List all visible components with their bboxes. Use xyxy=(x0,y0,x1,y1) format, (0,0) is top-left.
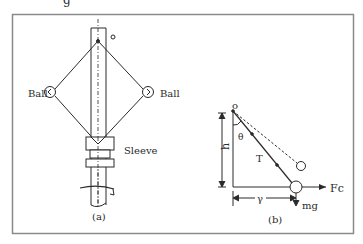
governor-diagram: g Ball Ball Sleeve (a) xyxy=(0,0,363,244)
theta-label: θ xyxy=(238,132,243,142)
right-ball-label: Ball xyxy=(160,88,180,99)
height-arrow-top xyxy=(219,113,225,119)
left-ball-label: Ball xyxy=(28,88,48,99)
sleeve-collar xyxy=(90,150,110,158)
tension-arm xyxy=(233,111,292,183)
displaced-ball xyxy=(297,162,306,171)
mg-label: mg xyxy=(302,200,318,211)
top-pivot xyxy=(97,40,100,43)
theta-arc xyxy=(233,121,241,125)
radius-arrow-left xyxy=(233,195,239,201)
rotation-arrow xyxy=(80,186,114,189)
rotation-arrow-head xyxy=(110,189,114,195)
sleeve xyxy=(86,137,114,150)
sleeve-label: Sleeve xyxy=(124,145,158,156)
caption-a: (a) xyxy=(92,211,106,222)
caption-b: (b) xyxy=(268,214,282,225)
right-ball xyxy=(143,87,154,98)
tension-label: T xyxy=(256,153,263,164)
upper-left-arm xyxy=(55,41,98,89)
upper-right-arm xyxy=(98,41,143,89)
tension-mark-2 xyxy=(276,164,279,167)
weight-arrow-head xyxy=(293,200,299,206)
shaft-bottom xyxy=(91,203,106,207)
figure-a xyxy=(45,19,154,207)
top-text-fragment: g xyxy=(63,0,71,7)
pivot-circle-icon xyxy=(111,35,115,39)
ball xyxy=(290,181,302,193)
sleeve-ring xyxy=(86,159,114,167)
figure-b xyxy=(218,110,326,206)
height-arrow-bottom xyxy=(219,181,225,187)
height-label: h xyxy=(219,143,232,150)
tension-mark-1 xyxy=(251,133,254,136)
radius-label: γ xyxy=(257,193,263,204)
fc-label: Fc xyxy=(330,182,344,195)
shaft xyxy=(91,28,106,205)
origin-label: o xyxy=(232,100,238,111)
